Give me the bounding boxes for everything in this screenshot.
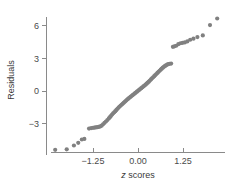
y-tick-label: 3 <box>34 54 39 64</box>
plot-area: −3036 −1.250.001.25 Residuals z scores <box>0 0 225 187</box>
y-tick-label: 6 <box>34 21 39 31</box>
y-axis: −3036 <box>29 17 46 155</box>
x-axis-title: z scores <box>120 170 155 180</box>
data-point <box>76 141 80 145</box>
data-point <box>53 148 57 152</box>
x-tick-label: −1.25 <box>82 156 105 166</box>
y-tick-label: −3 <box>29 119 39 129</box>
data-point <box>191 37 195 41</box>
qq-plot-chart: −3036 −1.250.001.25 Residuals z scores <box>0 0 225 187</box>
y-axis-title: Residuals <box>6 60 16 100</box>
data-point <box>215 16 219 20</box>
data-point <box>195 35 199 39</box>
data-point <box>72 143 76 147</box>
x-tick-label: 0.00 <box>129 156 147 166</box>
data-point <box>201 33 205 37</box>
data-points <box>53 16 219 152</box>
x-axis: −1.250.001.25 <box>51 148 225 166</box>
data-point <box>208 23 212 27</box>
x-tick-label: 1.25 <box>174 156 192 166</box>
data-point <box>82 137 86 141</box>
data-point <box>65 147 69 151</box>
y-tick-label: 0 <box>34 86 39 96</box>
data-point <box>169 61 173 65</box>
